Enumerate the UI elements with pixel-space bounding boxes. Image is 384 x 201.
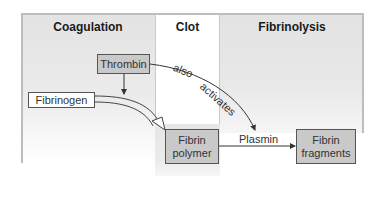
fibrin-fragments-label-line2: fragments — [302, 147, 351, 160]
thrombin-label: Thrombin — [100, 58, 146, 71]
plasmin-label: Plasmin — [239, 133, 278, 145]
fibrin-polymer-node: Fibrin polymer — [165, 129, 219, 164]
fibrin-fragments-label-line1: Fibrin — [312, 134, 340, 147]
fibrinogen-hollow-arrowhead — [152, 117, 165, 130]
fibrinogen-node: Fibrinogen — [28, 92, 95, 108]
fibrin-polymer-label-line2: polymer — [172, 147, 211, 160]
fibrin-polymer-label-line1: Fibrin — [178, 134, 206, 147]
thrombin-node: Thrombin — [97, 54, 150, 74]
fibrinogen-label: Fibrinogen — [36, 94, 88, 107]
also-activates-arrow — [150, 64, 255, 130]
fibrin-fragments-node: Fibrin fragments — [296, 129, 356, 164]
